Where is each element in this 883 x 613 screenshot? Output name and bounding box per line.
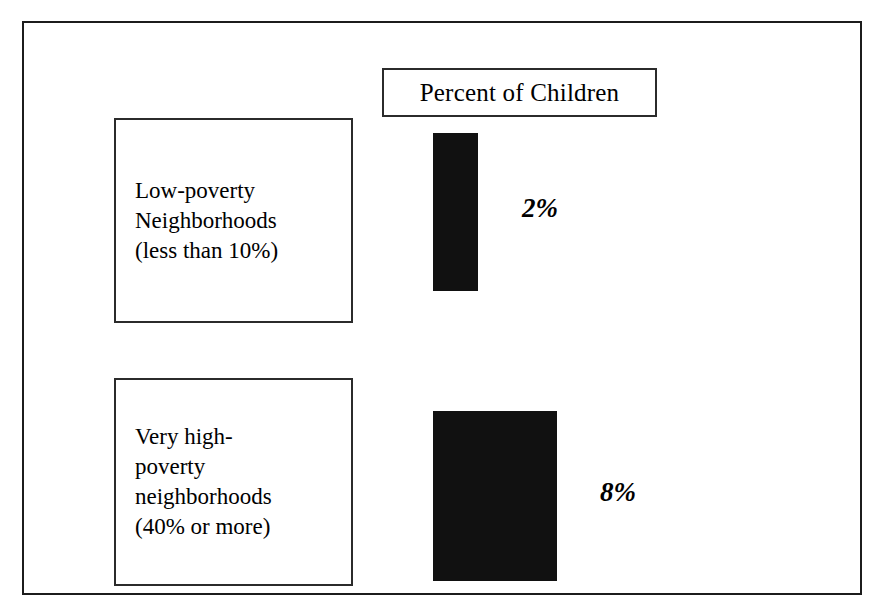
category-label-line: (less than 10%)	[135, 236, 343, 266]
chart-title-box: Percent of Children	[382, 68, 657, 117]
bar-value-label-low-poverty: 2%	[522, 195, 558, 222]
category-label-lines: Low-poverty Neighborhoods (less than 10%…	[116, 176, 351, 266]
category-label-line: Very high-	[135, 422, 343, 452]
category-label-line: neighborhoods	[135, 482, 343, 512]
bar-very-high-poverty	[433, 411, 557, 581]
bar-value-label-very-high-poverty: 8%	[600, 479, 636, 506]
category-label-box-low-poverty: Low-poverty Neighborhoods (less than 10%…	[114, 118, 353, 323]
category-label-line: Low-poverty	[135, 176, 343, 206]
category-label-line: (40% or more)	[135, 512, 343, 542]
category-label-line: Neighborhoods	[135, 206, 343, 236]
category-label-lines: Very high- poverty neighborhoods (40% or…	[116, 422, 351, 542]
category-label-line: poverty	[135, 452, 343, 482]
chart-frame: Percent of Children Low-poverty Neighbor…	[22, 21, 862, 595]
category-label-box-very-high-poverty: Very high- poverty neighborhoods (40% or…	[114, 378, 353, 586]
bar-low-poverty	[433, 133, 478, 291]
chart-title: Percent of Children	[420, 80, 620, 105]
